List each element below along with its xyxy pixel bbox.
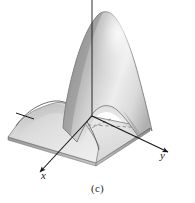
y-axis-label: y <box>160 150 165 161</box>
x-axis-label: x <box>41 170 46 181</box>
surface-plot-graphic <box>0 0 195 203</box>
figure-caption: (c) <box>0 182 195 194</box>
figure-container: x y (c) <box>0 0 195 203</box>
